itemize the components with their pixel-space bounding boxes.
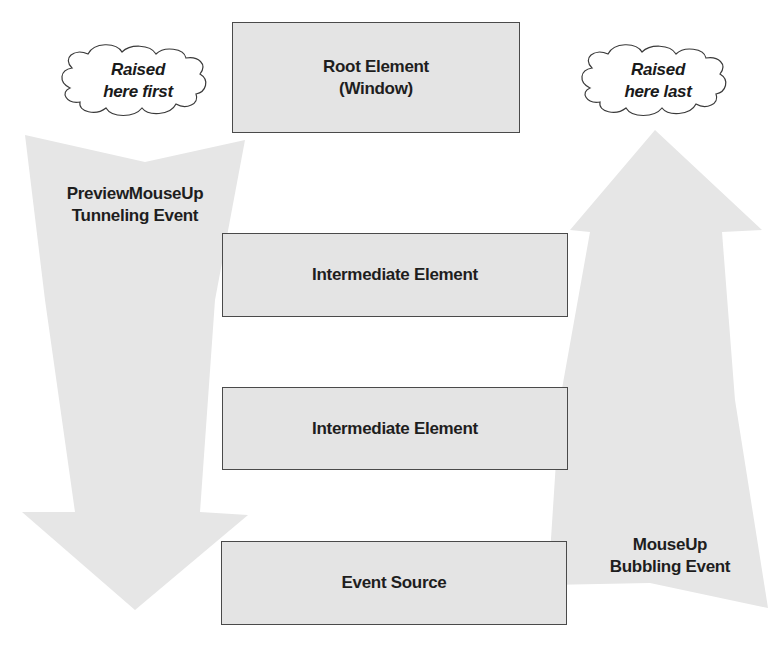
cloud-last-text: Raised here last [598,59,718,103]
root-element-box: Root Element (Window) [232,22,520,133]
intermediate-element-label: Intermediate Element [312,264,478,286]
event-source-box: Event Source [221,541,567,625]
tunneling-event-label: PreviewMouseUp Tunneling Event [30,183,240,227]
cloud-first-text: Raised here first [78,59,198,103]
intermediate-element-label: Intermediate Element [312,418,478,440]
intermediate-element-box-1: Intermediate Element [222,233,568,317]
root-element-label: Root Element (Window) [323,56,429,100]
intermediate-element-box-2: Intermediate Element [222,387,568,470]
bubbling-event-label: MouseUp Bubbling Event [585,534,755,578]
routed-event-diagram: Raised here first Raised here last Previ… [0,0,770,662]
event-source-label: Event Source [341,572,446,594]
